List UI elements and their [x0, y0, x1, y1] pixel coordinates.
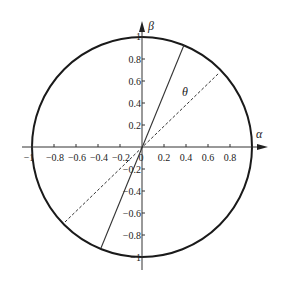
x-tick-label: −1: [24, 152, 35, 163]
unit-circle-diagram: −1 −0.8 −0.6 −0.4 −0.2 0 0.2 0.4 0.6 0.8…: [0, 0, 281, 286]
y-tick-label: 0.2: [129, 120, 142, 131]
x-tick-label: 0.4: [180, 152, 193, 163]
x-tick-label: 0.6: [202, 152, 215, 163]
x-tick-label: 0.8: [224, 152, 237, 163]
y-tick-label: 0.6: [129, 76, 142, 87]
y-tick-label: −0.6: [123, 208, 141, 219]
y-tick-label: 1: [136, 31, 141, 42]
y-tick-label: −1: [130, 252, 141, 263]
beta-axis-label: β: [147, 19, 154, 33]
x-tick-label: −0.6: [68, 152, 86, 163]
alpha-axis-arrow-icon: [257, 144, 268, 150]
y-tick-label: 0.8: [129, 54, 142, 65]
theta-angle-label: θ: [182, 85, 188, 99]
y-tick-label: −0.8: [123, 230, 141, 241]
alpha-axis-label: α: [256, 127, 263, 141]
x-tick-label: −0.8: [46, 152, 64, 163]
x-tick-label: 0.2: [158, 152, 171, 163]
x-tick-labels: −1 −0.8 −0.6 −0.4 −0.2 0 0.2 0.4 0.6 0.8: [24, 152, 237, 163]
x-tick-label: −0.4: [90, 152, 108, 163]
y-tick-label: 0.4: [129, 98, 142, 109]
